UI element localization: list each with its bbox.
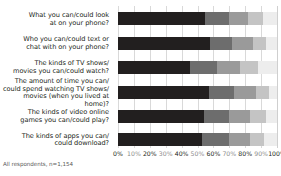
- x-tick-label-50: 50%: [191, 150, 205, 158]
- bar-row: [118, 133, 277, 146]
- plot-area: [118, 6, 277, 148]
- bar-segment-4: [253, 37, 266, 50]
- category-label-column: What you can/could look at on your phone…: [0, 6, 112, 148]
- bar-segment-1: [118, 37, 210, 50]
- x-tick-label-40: 40%: [175, 150, 189, 158]
- bar-segment-4: [240, 61, 257, 74]
- bar-segment-3: [229, 110, 250, 123]
- x-tick-label-0: 0%: [113, 150, 123, 158]
- category-label-3: The amount of time you can/ could spend …: [0, 78, 109, 108]
- x-axis: 0%10%20%30%40%50%60%70%80%90%100%: [118, 150, 277, 160]
- x-tick-label-80: 80%: [238, 150, 252, 158]
- stacked-bar-chart: What you can/could look at on your phone…: [0, 0, 281, 176]
- bar-segment-1: [118, 86, 209, 99]
- category-label-4: The kinds of video online games you can/…: [0, 109, 109, 124]
- category-label-2: The kinds of TV shows/ movies you can/co…: [0, 60, 109, 75]
- bar-segment-4: [250, 110, 266, 123]
- bar-series-container: [118, 6, 277, 148]
- bar-row: [118, 61, 277, 74]
- x-tick-label-70: 70%: [222, 150, 236, 158]
- x-tick-label-60: 60%: [207, 150, 221, 158]
- bar-segment-2: [202, 133, 229, 146]
- bar-segment-1: [118, 110, 204, 123]
- bar-segment-2: [210, 37, 232, 50]
- gridline-100: [277, 6, 278, 148]
- x-tick-label-100: 100%: [268, 150, 281, 158]
- bar-segment-5: [269, 86, 277, 99]
- footnote: All respondents, n=1,154: [3, 161, 73, 168]
- bar-segment-3: [229, 12, 248, 25]
- x-tick-label-20: 20%: [143, 150, 157, 158]
- bar-segment-2: [205, 12, 229, 25]
- bar-segment-2: [204, 110, 229, 123]
- bar-segment-3: [217, 61, 241, 74]
- bar-segment-2: [190, 61, 217, 74]
- x-tick-label-90: 90%: [254, 150, 268, 158]
- bar-segment-4: [248, 12, 262, 25]
- bar-segment-1: [118, 133, 202, 146]
- bar-row: [118, 110, 277, 123]
- bar-segment-5: [266, 110, 277, 123]
- bar-segment-4: [256, 86, 269, 99]
- category-label-1: Who you can/could text or chat with on y…: [0, 36, 109, 51]
- bar-segment-5: [258, 61, 277, 74]
- x-tick-label-10: 10%: [127, 150, 141, 158]
- category-label-0: What you can/could look at on your phone…: [0, 12, 109, 27]
- bar-row: [118, 86, 277, 99]
- bar-segment-5: [263, 12, 277, 25]
- bar-row: [118, 12, 277, 25]
- bar-segment-3: [229, 133, 250, 146]
- bar-segment-1: [118, 61, 190, 74]
- bar-segment-5: [264, 133, 277, 146]
- bar-segment-3: [234, 86, 256, 99]
- bar-segment-3: [232, 37, 253, 50]
- bar-segment-4: [250, 133, 264, 146]
- bar-segment-2: [209, 86, 234, 99]
- bar-segment-1: [118, 12, 205, 25]
- x-tick-label-30: 30%: [159, 150, 173, 158]
- bar-row: [118, 37, 277, 50]
- category-label-5: The kinds of apps you can/ could downloa…: [0, 133, 109, 148]
- bar-segment-5: [266, 37, 277, 50]
